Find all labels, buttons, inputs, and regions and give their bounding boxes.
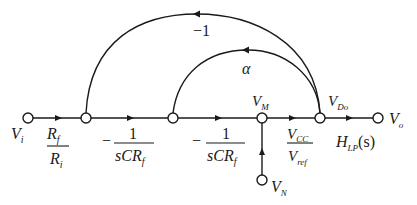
feedback-inner-label: α — [242, 60, 251, 77]
label-vo: Vo — [389, 110, 404, 130]
signal-flow-graph: Vi VM VDo Vo VN Rf Ri − 1 sCRf − 1 sCRf … — [0, 0, 417, 205]
label-vm: VM — [252, 93, 269, 112]
arrow-icon — [215, 115, 222, 121]
gain5-transfer-function: HLP(s) — [335, 133, 375, 153]
gain1-numerator: Rf — [46, 125, 61, 145]
arrow-icon — [127, 115, 134, 121]
node-vm — [257, 113, 267, 123]
gain1-denominator: Ri — [49, 150, 63, 170]
feedback-outer-label: −1 — [193, 22, 210, 39]
node-vdo — [315, 113, 325, 123]
arrow-icon — [346, 115, 353, 121]
gain3-sign: − — [192, 132, 201, 149]
gain4-denominator: Vref — [288, 148, 308, 167]
node-2 — [81, 113, 91, 123]
gain2-sign: − — [102, 132, 111, 149]
gain4-numerator: VCC — [287, 126, 309, 144]
gain3-numerator: 1 — [222, 125, 230, 142]
label-vn: VN — [271, 178, 288, 198]
node-3 — [168, 113, 178, 123]
arrow-icon — [55, 115, 62, 121]
gain2-denominator: sCRf — [115, 147, 146, 167]
label-vi: Vi — [11, 125, 24, 145]
arrow-icon — [242, 47, 249, 54]
arrow-icon — [259, 148, 265, 155]
node-vo — [373, 113, 383, 123]
gain2-numerator: 1 — [129, 125, 137, 142]
node-vi — [23, 113, 33, 123]
label-vdo: VDo — [328, 93, 349, 112]
arrow-icon — [193, 11, 200, 18]
arrow-icon — [289, 115, 296, 121]
node-vn — [257, 175, 267, 185]
gain3-denominator: sCRf — [207, 147, 238, 167]
